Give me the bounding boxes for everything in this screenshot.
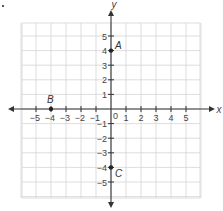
x-axis-left-arrow-icon <box>8 106 14 112</box>
y-axis-label: y <box>111 0 118 10</box>
point-c <box>109 165 113 169</box>
y-tick-label: 4 <box>102 46 107 56</box>
point-label-a: A <box>114 40 122 51</box>
coordinate-plane: xy −5−4−3−2−11234554321−1−2−3−4−50 ABC <box>0 0 223 211</box>
y-tick-label: −3 <box>97 148 107 158</box>
y-tick-label: −5 <box>97 178 107 188</box>
x-tick-label: 5 <box>183 113 188 123</box>
point-b <box>49 107 53 111</box>
x-axis-right-arrow-icon <box>209 106 215 112</box>
y-tick-label: −2 <box>97 134 107 144</box>
x-tick-label: 2 <box>138 113 143 123</box>
point-label-c: C <box>115 168 123 179</box>
y-tick-label: 5 <box>102 32 107 42</box>
x-axis-label: x <box>216 104 223 115</box>
origin-label: 0 <box>113 111 118 121</box>
x-tick-label: −3 <box>60 113 70 123</box>
x-tick-label: 1 <box>123 113 128 123</box>
point-label-b: B <box>47 94 54 105</box>
x-tick-label: −5 <box>30 113 40 123</box>
x-tick-label: −4 <box>45 113 55 123</box>
y-tick-label: −4 <box>97 163 107 173</box>
y-tick-label: 3 <box>102 61 107 71</box>
y-tick-label: −1 <box>97 119 107 129</box>
y-tick-label: 1 <box>102 90 107 100</box>
x-tick-label: 4 <box>168 113 173 123</box>
y-axis-down-arrow-icon <box>108 202 114 208</box>
y-tick-label: 2 <box>102 75 107 85</box>
x-tick-label: 3 <box>153 113 158 123</box>
x-tick-label: −2 <box>75 113 85 123</box>
point-a <box>109 48 113 52</box>
y-axis-up-arrow-icon <box>108 10 114 16</box>
